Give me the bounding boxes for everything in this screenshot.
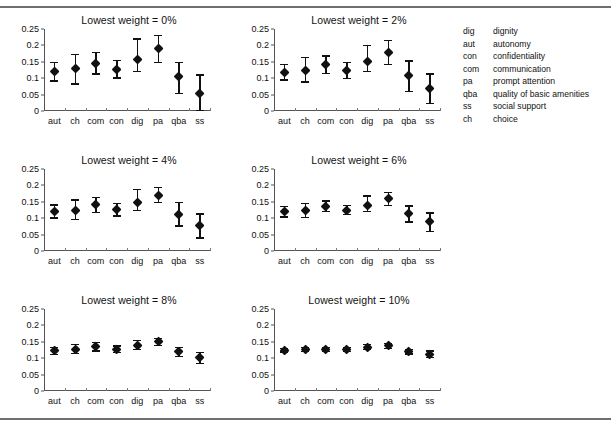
x-axis-tick-label: com bbox=[87, 396, 104, 406]
error-bar-cap-lower bbox=[113, 77, 121, 78]
error-bar-cap-upper bbox=[175, 62, 183, 63]
error-bar-cap-upper bbox=[322, 55, 330, 56]
data-series bbox=[44, 169, 210, 251]
x-axis-tick-label: com bbox=[317, 256, 334, 266]
error-bar-cap-upper bbox=[280, 64, 288, 65]
legend-row: qbaquality of basic amenities bbox=[463, 89, 607, 100]
x-axis-tick-label: ch bbox=[70, 256, 80, 266]
x-axis-tick-label: ch bbox=[300, 396, 310, 406]
error-bar-cap-upper bbox=[301, 203, 309, 204]
data-point-marker bbox=[70, 205, 80, 215]
panel-grid: Lowest weight = 0%0.250.20.150.10.050aut… bbox=[0, 8, 460, 408]
x-axis-tick-label: dig bbox=[131, 116, 143, 126]
error-bar-cap-lower bbox=[301, 217, 309, 218]
legend-abbreviation: dig bbox=[463, 26, 493, 37]
error-bar-cap-upper bbox=[196, 74, 204, 75]
error-bar-cap-lower bbox=[426, 231, 434, 232]
plot-area: 0.250.20.150.10.050autchcomcondigpaqbass bbox=[274, 29, 440, 111]
x-axis-tick-label: qba bbox=[171, 256, 186, 266]
error-bar-cap-lower bbox=[301, 81, 309, 82]
x-axis-tick-label: pa bbox=[153, 256, 163, 266]
data-point-marker bbox=[153, 44, 163, 54]
error-bar-cap-upper bbox=[405, 205, 413, 206]
x-axis-tick-label: con bbox=[109, 396, 124, 406]
x-axis-tick-label: dig bbox=[361, 116, 373, 126]
legend-row: chchoice bbox=[463, 114, 607, 125]
x-axis-tick-label: pa bbox=[153, 116, 163, 126]
x-axis-tick-label: con bbox=[339, 396, 354, 406]
data-point-marker bbox=[321, 201, 331, 211]
legend-abbreviation: pa bbox=[463, 76, 493, 87]
x-axis-tick-label: dig bbox=[361, 256, 373, 266]
data-point-marker bbox=[362, 200, 372, 210]
data-point-marker bbox=[132, 55, 142, 65]
error-bar-cap-lower bbox=[71, 219, 79, 220]
x-axis-tick-label: dig bbox=[131, 396, 143, 406]
error-bar-cap-upper bbox=[363, 45, 371, 46]
data-point-marker bbox=[362, 57, 372, 67]
data-point-marker bbox=[404, 71, 414, 81]
data-point-marker bbox=[321, 59, 331, 69]
data-point-marker bbox=[404, 209, 414, 219]
error-bar-cap-upper bbox=[133, 38, 141, 39]
x-axis-tick-label: pa bbox=[383, 116, 393, 126]
x-axis-tick-label: ch bbox=[300, 256, 310, 266]
error-bar-cap-lower bbox=[280, 79, 288, 80]
error-bar-cap-lower bbox=[405, 221, 413, 222]
error-bar-cap-lower bbox=[113, 215, 121, 216]
error-bar-cap-lower bbox=[426, 103, 434, 104]
plot-area: 0.250.20.150.10.050autchcomcondigpaqbass bbox=[44, 169, 210, 251]
figure-container: Lowest weight = 0%0.250.20.150.10.050aut… bbox=[0, 0, 611, 425]
x-axis-tick-label: aut bbox=[48, 116, 61, 126]
data-series bbox=[44, 309, 210, 391]
error-bar-cap-lower bbox=[384, 64, 392, 65]
bottom-divider-rule bbox=[0, 418, 611, 420]
x-axis-tick-mark bbox=[210, 388, 211, 391]
panel-5: Lowest weight = 10%0.250.20.150.10.050au… bbox=[230, 292, 460, 425]
legend-abbreviation: com bbox=[463, 64, 493, 75]
legend-definition: choice bbox=[493, 114, 607, 125]
error-bar-cap-lower bbox=[92, 212, 100, 213]
error-bar-cap-lower bbox=[384, 205, 392, 206]
data-point-marker bbox=[112, 64, 122, 74]
error-bar-cap-lower bbox=[343, 78, 351, 79]
figure-body: Lowest weight = 0%0.250.20.150.10.050aut… bbox=[0, 8, 611, 425]
error-bar-cap-upper bbox=[133, 189, 141, 190]
x-axis-tick-label: qba bbox=[171, 396, 186, 406]
x-axis-tick-label: aut bbox=[48, 396, 61, 406]
x-axis-tick-label: con bbox=[339, 256, 354, 266]
error-bar-cap-lower bbox=[196, 110, 204, 111]
data-point-marker bbox=[425, 217, 435, 227]
legend-abbreviation: ss bbox=[463, 101, 493, 112]
x-axis-tick-label: com bbox=[87, 116, 104, 126]
x-axis-tick-label: pa bbox=[383, 256, 393, 266]
data-point-marker bbox=[91, 200, 101, 210]
x-axis-tick-mark bbox=[440, 388, 441, 391]
x-axis-tick-label: ss bbox=[195, 116, 204, 126]
x-axis-tick-label: ss bbox=[195, 256, 204, 266]
legend-abbreviation: qba bbox=[463, 89, 493, 100]
error-bar-cap-upper bbox=[71, 199, 79, 200]
data-point-marker bbox=[279, 67, 289, 77]
error-bar-cap-lower bbox=[133, 71, 141, 72]
x-axis-tick-label: ss bbox=[195, 396, 204, 406]
x-axis-tick-label: qba bbox=[401, 256, 416, 266]
data-point-marker bbox=[49, 67, 59, 77]
error-bar-cap-lower bbox=[154, 62, 162, 63]
x-axis-tick-label: ss bbox=[425, 396, 434, 406]
legend-definition: quality of basic amenities bbox=[493, 89, 607, 100]
data-point-marker bbox=[195, 220, 205, 230]
x-axis-tick-label: ch bbox=[70, 116, 80, 126]
data-point-marker bbox=[425, 84, 435, 94]
plot-area: 0.250.20.150.10.050autchcomcondigpaqbass bbox=[44, 29, 210, 111]
error-bar-cap-lower bbox=[196, 363, 204, 364]
legend-abbreviation: aut bbox=[463, 39, 493, 50]
error-bar-cap-lower bbox=[322, 73, 330, 74]
data-point-marker bbox=[132, 197, 142, 207]
panel-2: Lowest weight = 4%0.250.20.150.10.050aut… bbox=[0, 152, 230, 285]
x-axis-tick-label: aut bbox=[278, 116, 291, 126]
panel-0: Lowest weight = 0%0.250.20.150.10.050aut… bbox=[0, 12, 230, 145]
error-bar-cap-upper bbox=[343, 62, 351, 63]
legend-row: comcommunication bbox=[463, 64, 607, 75]
legend-definition: confidentiality bbox=[493, 51, 607, 62]
